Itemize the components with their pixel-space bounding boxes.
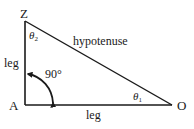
vertex-label-a: A xyxy=(9,98,19,113)
right-angle-label: 90° xyxy=(45,67,62,81)
vertex-label-o: O xyxy=(177,98,186,113)
theta-1-label: θ1 xyxy=(133,90,142,104)
right-triangle-diagram: Z A O leg leg hypotenuse θ2 θ1 90° xyxy=(0,0,194,129)
hypotenuse-label: hypotenuse xyxy=(73,34,128,48)
theta-2-label: θ2 xyxy=(29,29,38,43)
vertex-label-z: Z xyxy=(20,6,28,21)
vertical-leg-label: leg xyxy=(4,56,19,70)
horizontal-leg-label: leg xyxy=(86,108,101,122)
